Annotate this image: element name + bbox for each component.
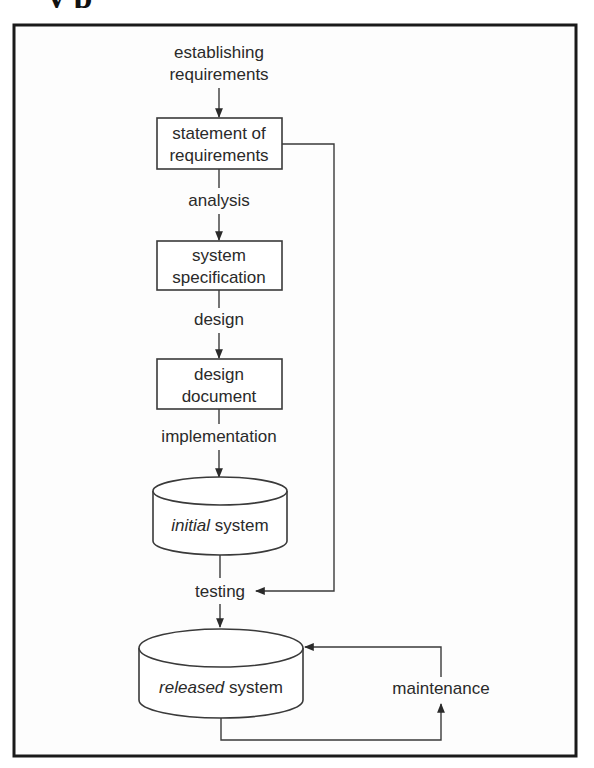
box-statement-of-requirements: statement of requirements: [157, 118, 282, 169]
cylinder-released-system: released system: [139, 629, 303, 718]
box3-line2: document: [182, 387, 257, 406]
label-analysis: analysis: [188, 191, 249, 210]
initial-system-prefix: initial: [171, 516, 211, 535]
label-testing: testing: [195, 582, 245, 601]
label-design: design: [194, 310, 244, 329]
box2-line2: specification: [172, 268, 266, 287]
released-system-label: released system: [159, 678, 283, 697]
initial-system-label: initial system: [171, 516, 268, 535]
box-design-document: design document: [157, 359, 282, 409]
label-maintenance: maintenance: [392, 679, 489, 698]
initial-system-suffix: system: [210, 516, 269, 535]
released-system-prefix: released: [159, 678, 225, 697]
box1-line2: requirements: [169, 146, 268, 165]
released-system-suffix: system: [224, 678, 283, 697]
label-establishing: establishing: [174, 43, 264, 62]
box3-line1: design: [194, 365, 244, 384]
lifecycle-diagram: establishing requirements statement of r…: [0, 0, 594, 768]
box-system-specification: system specification: [157, 241, 282, 290]
box2-line1: system: [192, 246, 246, 265]
box1-line1: statement of: [172, 124, 266, 143]
label-implementation: implementation: [161, 427, 276, 446]
label-requirements: requirements: [169, 65, 268, 84]
cylinder-initial-system: initial system: [153, 477, 287, 555]
